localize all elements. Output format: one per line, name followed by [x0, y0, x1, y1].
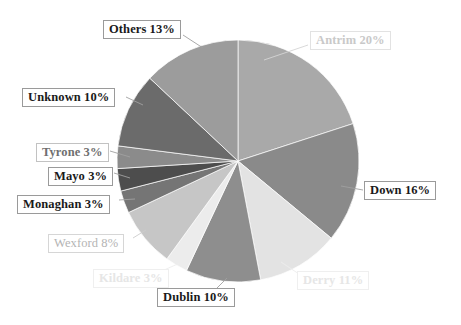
pie-label-wexford[interactable]: Wexford 8%	[48, 234, 124, 253]
pie-label-antrim[interactable]: Antrim 20%	[310, 31, 391, 50]
pie-label-kildare[interactable]: Kildare 3%	[93, 269, 169, 288]
pie-label-others[interactable]: Others 13%	[103, 20, 181, 39]
pie-label-down[interactable]: Down 16%	[364, 181, 436, 200]
pie-label-derry[interactable]: Derry 11%	[297, 271, 369, 290]
pie-canvas	[0, 0, 461, 325]
pie-slice-group	[117, 40, 359, 282]
pie-chart: Antrim 20%Down 16%Derry 11%Dublin 10%Kil…	[0, 0, 461, 325]
leader-line-others	[183, 35, 203, 48]
pie-label-dublin[interactable]: Dublin 10%	[157, 288, 235, 307]
pie-label-mayo[interactable]: Mayo 3%	[48, 167, 113, 186]
pie-label-unknown[interactable]: Unknown 10%	[22, 88, 115, 107]
pie-label-monaghan[interactable]: Monaghan 3%	[17, 195, 110, 214]
pie-label-tyrone[interactable]: Tyrone 3%	[36, 143, 109, 162]
